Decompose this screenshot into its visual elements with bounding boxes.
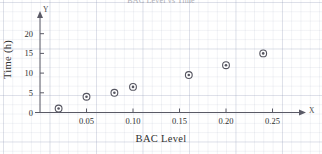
data-point-marker xyxy=(83,93,90,100)
x-axis-letter: X xyxy=(309,106,314,115)
y-tick-label: 5 xyxy=(11,88,33,98)
y-tick-label: 0 xyxy=(11,108,33,118)
x-tick-label: 0.05 xyxy=(72,116,102,126)
y-axis-letter: Y xyxy=(43,5,48,14)
y-tick-label: 10 xyxy=(11,68,33,78)
axes xyxy=(35,11,306,116)
data-points xyxy=(55,50,266,112)
x-tick-label: 0.10 xyxy=(118,116,148,126)
x-axis-arrowhead xyxy=(299,110,306,116)
x-tick-label: 0.15 xyxy=(165,116,195,126)
x-axis-title: BAC Level xyxy=(0,133,322,144)
y-tick-label: 20 xyxy=(11,29,33,39)
data-point-marker xyxy=(223,62,230,69)
axis-ticks xyxy=(40,34,273,113)
data-point-marker xyxy=(260,50,267,57)
y-axis-title: Time (h) xyxy=(2,25,13,95)
y-tick-label: 15 xyxy=(11,48,33,58)
x-tick-label: 0.20 xyxy=(211,116,241,126)
data-point-marker xyxy=(111,89,118,96)
data-point-marker xyxy=(185,72,192,79)
x-tick-label: 0.25 xyxy=(258,116,288,126)
scatter-plot-figure: BAC Level vs Time Y X 0.050.100.150.200.… xyxy=(0,0,322,154)
data-point-marker xyxy=(130,83,137,90)
plot-area xyxy=(0,0,322,154)
data-point-marker xyxy=(55,105,62,112)
